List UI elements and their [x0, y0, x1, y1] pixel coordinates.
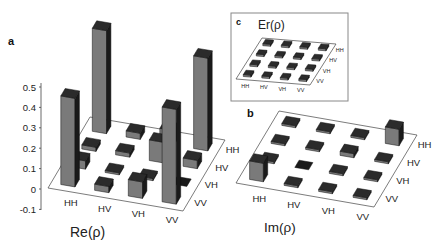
bar: [126, 123, 145, 139]
x-axis-label: HH: [241, 83, 249, 89]
bar: [364, 170, 382, 182]
x-axis-label: VH: [322, 205, 335, 216]
bar: [128, 172, 147, 198]
bar: [105, 163, 124, 175]
bar: [329, 164, 347, 176]
panel-c-title: Er(ρ): [258, 18, 285, 32]
x-axis-label: HH: [64, 197, 78, 208]
bar: [95, 177, 114, 193]
bar: [194, 48, 213, 150]
panel-c-error-inset: cEr(ρ)HHHVVHVVHHHVVHVV: [231, 13, 348, 101]
bar: [250, 154, 268, 182]
y-axis-label: HH: [418, 139, 432, 150]
bar: [353, 188, 371, 200]
z-tick-label: -0.1: [20, 204, 36, 215]
x-axis-label: HV: [260, 84, 268, 90]
bar: [351, 128, 369, 140]
bar: [271, 134, 289, 146]
y-axis-label: HH: [336, 47, 344, 53]
z-tick-label: 0.4: [23, 102, 36, 113]
bar: [319, 182, 337, 194]
bar: [306, 140, 324, 152]
panel-b-imag-part: bHHHVVHVVHHHVVHVVIm(ρ): [236, 107, 431, 235]
y-axis-label: HH: [226, 144, 240, 155]
bar: [295, 160, 313, 170]
z-tick-label: 0.5: [23, 82, 36, 93]
x-axis-label: HV: [287, 199, 301, 210]
z-tick-label: 0: [31, 184, 36, 195]
bar: [316, 122, 334, 134]
y-axis-label: HV: [215, 162, 229, 173]
y-axis-label: VV: [194, 197, 207, 208]
x-axis-label: HH: [252, 193, 266, 204]
x-axis-label: VV: [356, 211, 369, 222]
panel-b-title: Im(ρ): [264, 220, 296, 235]
z-tick-label: 0.2: [23, 143, 36, 154]
x-axis-label: VV: [297, 87, 305, 93]
bar: [284, 176, 302, 188]
z-tick-label: 0.1: [23, 163, 36, 174]
x-axis-label: HV: [98, 203, 112, 214]
y-axis-label: HV: [407, 157, 421, 168]
bar: [183, 151, 202, 169]
panel-a-title: Re(ρ): [70, 224, 105, 240]
bar: [375, 152, 393, 164]
panel-letter-b: b: [247, 107, 254, 119]
y-axis-label: VV: [316, 78, 324, 84]
bar: [385, 120, 403, 146]
x-axis-label: VH: [278, 86, 286, 92]
x-axis-label: VV: [166, 214, 179, 225]
bar: [82, 137, 101, 151]
y-axis-label: VH: [396, 175, 409, 186]
panel-letter-a: a: [8, 35, 15, 47]
y-axis-label: HV: [329, 57, 337, 63]
bar: [116, 143, 135, 157]
bar: [340, 144, 358, 158]
bar: [92, 21, 111, 134]
y-axis-label: VH: [205, 179, 218, 190]
bar: [162, 100, 181, 205]
bar: [61, 89, 80, 187]
bar: [282, 116, 300, 128]
y-axis-label: VV: [385, 193, 398, 204]
x-axis-label: VH: [132, 208, 145, 219]
panel-a-real-part: a0.50.40.30.20.10-0.1HHHVVHVVHHHVVHVVRe(…: [8, 21, 240, 240]
panel-letter-c: c: [236, 17, 241, 27]
y-axis-label: VH: [323, 68, 331, 74]
figure: a0.50.40.30.20.10-0.1HHHVVHVVHHHVVHVVRe(…: [0, 0, 444, 249]
z-tick-label: 0.3: [23, 122, 36, 133]
